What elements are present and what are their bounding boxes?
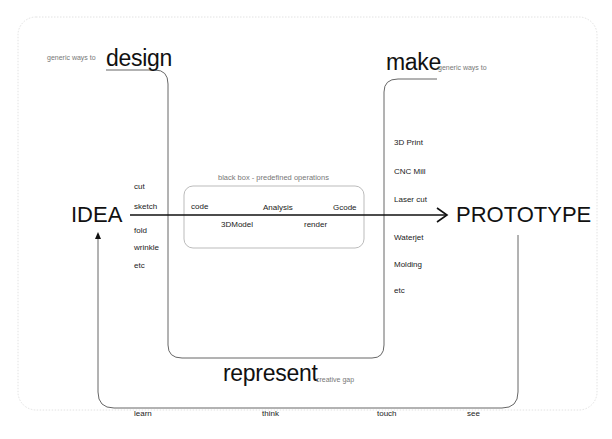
- op-render: render: [304, 221, 327, 229]
- feedback-arrow-head: [95, 232, 101, 239]
- op-gcode: Gcode: [333, 204, 357, 212]
- make-method-waterjet: Waterjet: [394, 234, 424, 242]
- loop-label-learn: learn: [134, 410, 152, 418]
- loop-label-touch: touch: [377, 410, 397, 418]
- make-method-laser-cut: Laser cut: [394, 196, 427, 204]
- idea-node: IDEA: [71, 204, 122, 226]
- make-method-cnc-mill: CNC Mill: [394, 168, 426, 176]
- op-3dmodel: 3DModel: [221, 221, 253, 229]
- black-box-frame: [184, 186, 364, 248]
- u-channel-path: [106, 70, 437, 358]
- make-method-3d-print: 3D Print: [394, 139, 423, 147]
- op-analysis: Analysis: [263, 204, 293, 212]
- represent-title: represent: [223, 362, 317, 385]
- prototype-node: PROTOTYPE: [456, 204, 591, 226]
- design-prefix: generic ways to: [47, 54, 96, 61]
- black-box-title: black box - predefined operations: [218, 174, 329, 182]
- design-method-etc: etc: [134, 262, 145, 270]
- loop-label-see: see: [467, 410, 480, 418]
- make-suffix: generic ways to: [438, 64, 487, 71]
- design-title: design: [106, 47, 172, 70]
- represent-suffix: creative gap: [316, 376, 354, 383]
- loop-label-think: think: [262, 410, 279, 418]
- design-method-wrinkle: wrinkle: [134, 244, 159, 252]
- make-method-etc: etc: [394, 287, 405, 295]
- design-method-sketch: sketch: [134, 203, 157, 211]
- make-method-molding: Molding: [394, 261, 422, 269]
- op-code: code: [191, 203, 208, 211]
- make-title: make: [386, 51, 441, 74]
- design-method-cut: cut: [134, 183, 145, 191]
- design-method-fold: fold: [134, 227, 147, 235]
